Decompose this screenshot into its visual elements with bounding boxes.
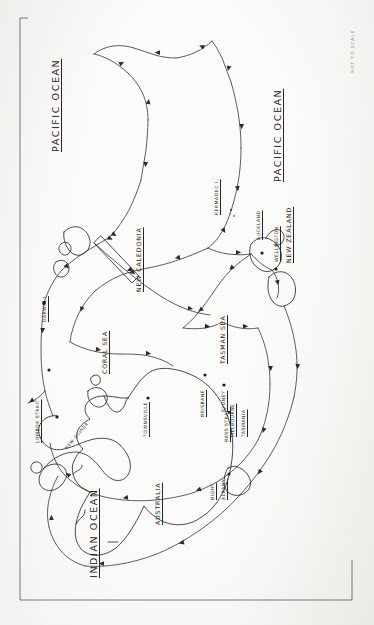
port-marker-darwin xyxy=(42,301,46,305)
port-marker-auckland xyxy=(260,251,263,254)
port-marker-brisbane xyxy=(203,373,206,376)
new-zealand-outline xyxy=(250,230,296,307)
port-markers xyxy=(42,251,278,475)
tasmania-outline xyxy=(224,467,251,496)
voyage-route xyxy=(28,41,297,566)
port-marker-albany xyxy=(228,473,231,476)
port-marker-wellington xyxy=(274,267,277,270)
map-drawing xyxy=(0,0,374,625)
australia-coastline xyxy=(72,368,232,555)
port-marker-melbourne xyxy=(228,411,231,414)
kermadec-islands xyxy=(230,209,235,217)
new-guinea-outline xyxy=(31,375,130,491)
route-arrowheads xyxy=(28,43,300,566)
port-marker-sydney xyxy=(222,383,225,386)
island-group-upper-left xyxy=(54,227,90,277)
map-sheet: PACIFIC OCEAN PACIFIC OCEAN INDIAN OCEAN… xyxy=(0,0,374,625)
port-marker-lombok xyxy=(47,368,50,371)
port-marker-townsville xyxy=(146,396,149,399)
port-marker-new-guinea xyxy=(55,415,58,418)
